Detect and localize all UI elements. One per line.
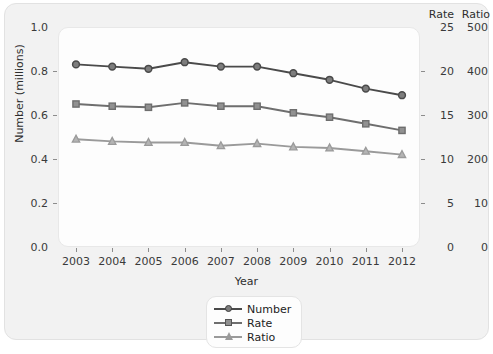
- x-axis-tick-mark: [221, 248, 222, 252]
- x-axis-tick-mark: [257, 248, 258, 252]
- y-axis-tick-mark-left: [53, 115, 57, 116]
- data-point: [217, 142, 224, 149]
- x-axis-tick-mark: [148, 248, 149, 252]
- legend-marker-triangle-icon: [214, 331, 242, 343]
- y-axis-tick-left: 0.2: [18, 198, 48, 209]
- series-line: [76, 62, 402, 95]
- legend-marker-circle-icon: [214, 303, 242, 315]
- data-point: [254, 103, 260, 109]
- x-axis-tick-2009: 2009: [273, 256, 313, 267]
- data-point: [326, 114, 332, 120]
- x-axis-tick-2008: 2008: [237, 256, 277, 267]
- data-point: [290, 143, 297, 150]
- chart-figure: Number (millions) Rate Ratio 1.00.80.60.…: [0, 0, 493, 354]
- y-axis-tick-mark-right: [421, 115, 425, 116]
- data-point: [398, 151, 405, 158]
- data-point: [145, 104, 151, 110]
- data-point: [290, 110, 296, 116]
- y-axis-tick-mark-right: [421, 203, 425, 204]
- y-axis-tick-rate: 15: [428, 110, 454, 121]
- y-axis-tick-ratio: 500: [458, 22, 488, 33]
- y-axis-tick-ratio: 400: [458, 66, 488, 77]
- data-point: [399, 92, 406, 99]
- y-axis-tick-ratio: 0: [458, 242, 488, 253]
- y-axis-tick-rate: 20: [428, 66, 454, 77]
- x-axis-tick-mark: [402, 248, 403, 252]
- legend-marker-square-icon: [214, 317, 242, 329]
- legend-item-rate[interactable]: Rate: [207, 316, 301, 330]
- legend-label: Ratio: [247, 332, 275, 343]
- x-axis-label: Year: [0, 276, 493, 287]
- y-axis-tick-mark-left: [53, 159, 57, 160]
- x-axis-tick-mark: [185, 248, 186, 252]
- y-axis-tick-mark-left: [53, 203, 57, 204]
- y-axis-tick-ratio: 10: [458, 198, 488, 209]
- data-point: [326, 76, 333, 83]
- y-axis-tick-ratio: 200: [458, 154, 488, 165]
- data-point: [72, 135, 79, 142]
- right-axis-header-ratio: Ratio: [456, 9, 490, 20]
- legend-item-number[interactable]: Number: [207, 302, 301, 316]
- x-axis-tick-2003: 2003: [56, 256, 96, 267]
- data-point: [290, 70, 297, 77]
- series-rate: [73, 100, 405, 134]
- plot-lines: [58, 27, 420, 247]
- data-point: [73, 101, 79, 107]
- data-point: [145, 65, 152, 72]
- data-point: [109, 63, 116, 70]
- y-axis-tick-left: 0.4: [18, 154, 48, 165]
- data-point: [363, 121, 369, 127]
- x-axis-tick-2012: 2012: [382, 256, 422, 267]
- y-axis-tick-rate: 10: [428, 154, 454, 165]
- series-line: [76, 103, 402, 130]
- x-axis-tick-mark: [293, 248, 294, 252]
- x-axis-tick-mark: [76, 248, 77, 252]
- x-axis-tick-mark: [330, 248, 331, 252]
- data-point: [253, 140, 260, 147]
- series-ratio: [72, 135, 405, 157]
- y-axis-tick-rate: 0: [428, 242, 454, 253]
- data-point: [217, 63, 224, 70]
- legend-item-ratio[interactable]: Ratio: [207, 330, 301, 344]
- y-axis-tick-rate: 25: [428, 22, 454, 33]
- data-point: [109, 103, 115, 109]
- y-axis-tick-mark-right: [421, 159, 425, 160]
- legend-label: Number: [247, 304, 291, 315]
- x-axis-tick-mark: [366, 248, 367, 252]
- x-axis-tick-2004: 2004: [92, 256, 132, 267]
- data-point: [181, 139, 188, 146]
- y-axis-tick-left: 0.6: [18, 110, 48, 121]
- y-axis-tick-left: 1.0: [18, 22, 48, 33]
- data-point: [326, 144, 333, 151]
- data-point: [145, 139, 152, 146]
- y-axis-tick-left: 0.8: [18, 66, 48, 77]
- series-number: [73, 59, 406, 99]
- x-axis-tick-mark: [112, 248, 113, 252]
- y-axis-tick-rate: 5: [428, 198, 454, 209]
- series-line: [76, 139, 402, 154]
- legend-label: Rate: [247, 318, 272, 329]
- data-point: [362, 85, 369, 92]
- right-axis-header-rate: Rate: [424, 9, 454, 20]
- x-axis-tick-2011: 2011: [346, 256, 386, 267]
- data-point: [362, 147, 369, 154]
- data-point: [218, 103, 224, 109]
- chart-legend: Number Rate Ratio: [206, 296, 302, 348]
- x-axis-tick-2006: 2006: [165, 256, 205, 267]
- y-axis-tick-ratio: 300: [458, 110, 488, 121]
- data-point: [399, 127, 405, 133]
- x-axis-tick-2007: 2007: [201, 256, 241, 267]
- data-point: [73, 61, 80, 68]
- data-point: [181, 59, 188, 66]
- y-axis-tick-mark-left: [53, 71, 57, 72]
- x-axis-tick-2005: 2005: [128, 256, 168, 267]
- data-point: [109, 137, 116, 144]
- y-axis-label-left: Number (millions): [14, 39, 25, 149]
- y-axis-tick-left: 0.0: [18, 242, 48, 253]
- data-point: [182, 100, 188, 106]
- data-point: [254, 63, 261, 70]
- y-axis-tick-mark-right: [421, 71, 425, 72]
- x-axis-tick-2010: 2010: [310, 256, 350, 267]
